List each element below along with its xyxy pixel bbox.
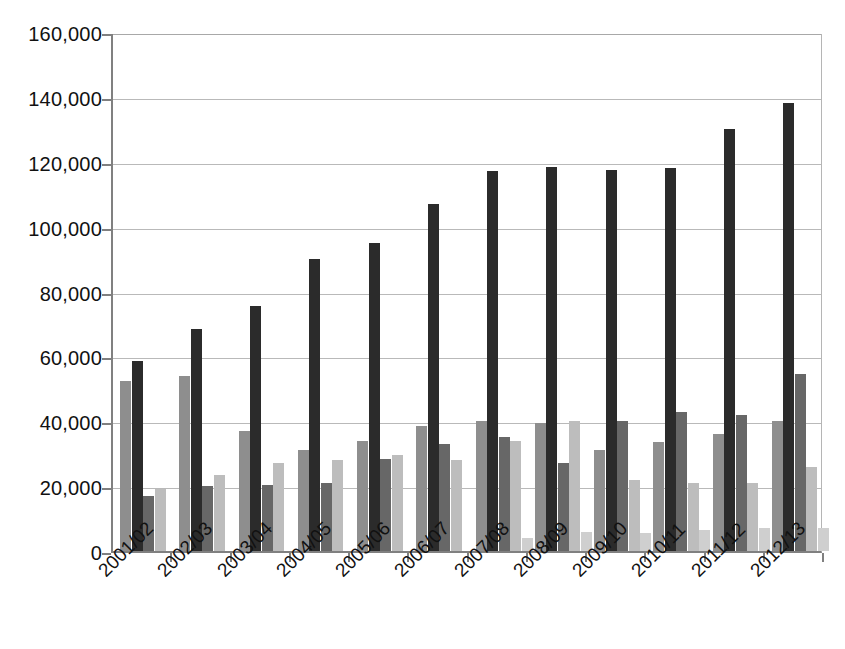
bar-chart: 020,00040,00060,00080,000100,000120,0001… [0,0,845,649]
x-axis-tick-label: 2005/06 [331,517,395,581]
x-axis-tick-label: 2004/05 [272,517,336,581]
x-axis-tick-label: 2001/02 [94,517,158,581]
x-axis-tick-label: 2012/13 [746,517,810,581]
x-axis-labels: 2001/022002/032003/042004/052005/062006/… [0,0,845,649]
x-axis-tick-label: 2003/04 [213,517,277,581]
x-axis-tick-label: 2002/03 [153,517,217,581]
x-axis-tick-label: 2009/10 [568,517,632,581]
x-axis-tick-label: 2010/11 [627,518,690,581]
x-axis-tick-label: 2008/09 [509,517,573,581]
x-axis-tick-label: 2011/12 [687,518,750,581]
x-axis-tick-label: 2006/07 [390,517,454,581]
x-axis-tick-label: 2007/08 [450,517,514,581]
